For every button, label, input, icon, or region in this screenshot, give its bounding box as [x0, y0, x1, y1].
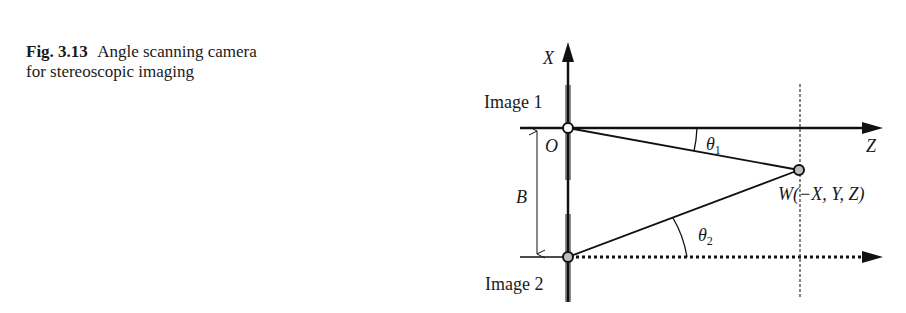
origin-point [563, 123, 573, 133]
theta1-subscript: 1 [715, 143, 721, 157]
theta1-label: θ1 [706, 134, 721, 157]
z-axis-label: Z [866, 136, 877, 156]
theta2-label: θ2 [698, 225, 713, 248]
w-point [794, 165, 804, 175]
w-point-label: W(−X, Y, Z) [778, 184, 865, 205]
origin-label: O [545, 136, 558, 156]
image2-point [563, 252, 573, 262]
image2-axis-arrow-icon [862, 251, 883, 263]
x-axis-arrow-icon [562, 42, 574, 62]
baseline-label: B [516, 187, 527, 207]
z-axis-arrow-icon [862, 122, 883, 134]
image1-label: Image 1 [484, 92, 542, 112]
theta1-symbol: θ [706, 134, 715, 154]
x-axis-label: X [542, 48, 555, 68]
theta2-symbol: θ [698, 225, 707, 245]
stereo-camera-diagram: X Image 1 O B Image 2 Z W(−X, Y, Z) θ1 θ… [0, 0, 906, 313]
theta2-subscript: 2 [707, 234, 713, 248]
theta2-arc [673, 218, 687, 257]
theta1-arc [694, 128, 697, 151]
image2-label: Image 2 [485, 274, 543, 294]
ray-image1-to-w [568, 128, 799, 170]
